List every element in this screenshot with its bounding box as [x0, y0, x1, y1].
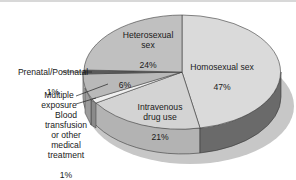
label-homosexual-name: Homosexual sex — [190, 62, 254, 72]
label-intravenous-value: 21% — [151, 132, 168, 142]
label-blood: Blood transfusion or other medical treat… — [36, 100, 96, 180]
label-prenatal-name: Prenatal/Postnatal — [18, 67, 88, 77]
label-intravenous-name: Intravenous drug use — [138, 102, 183, 122]
label-heterosexual-value: 24% — [139, 60, 156, 70]
label-homosexual-value: 47% — [213, 82, 230, 92]
label-heterosexual: Heterosexual sex 24% — [118, 20, 178, 70]
label-blood-name: Blood transfusion or other medical treat… — [45, 110, 87, 160]
label-blood-value: 1% — [60, 170, 72, 180]
label-heterosexual-name: Heterosexual sex — [123, 30, 174, 50]
label-intravenous: Intravenous drug use 21% — [130, 92, 190, 142]
label-multiple-value: 6% — [119, 80, 131, 90]
label-homosexual: Homosexual sex 47% — [184, 52, 260, 92]
label-multiple-value-onslice: 6% — [110, 70, 140, 90]
